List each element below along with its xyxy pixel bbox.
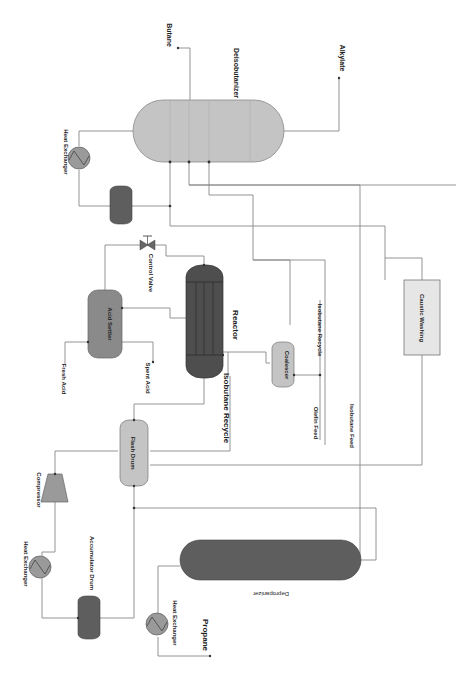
spent-acid-outlet-marker xyxy=(152,361,154,363)
heat-exchanger-top[interactable] xyxy=(68,147,90,169)
pipe-deisobutanizer-bottom2 xyxy=(189,162,456,185)
deisobutanizer[interactable] xyxy=(133,100,284,163)
alkylate-outlet-marker xyxy=(338,77,340,79)
label-compressor: Compressor xyxy=(36,472,42,508)
pipe-reactor-to-settler xyxy=(122,308,186,318)
pipe-alkylate xyxy=(284,78,339,131)
compressor[interactable] xyxy=(41,473,68,502)
label-coalescer: Coalescer xyxy=(284,351,290,380)
label-propane: Propane xyxy=(201,619,210,652)
label-fresh-acid: Fresh Acid xyxy=(61,364,67,395)
pipe-flash-to-recycle xyxy=(150,376,230,451)
pipe-fresh-acid xyxy=(65,342,88,365)
label-deisobutanizer: Deisobutanizer xyxy=(233,48,240,98)
process-flow-diagram: Butane Deisobutanizer Alkylate Heat Exch… xyxy=(0,0,456,679)
pipe-coalescer-to-reactor xyxy=(228,352,270,363)
label-control-valve: Control Valve xyxy=(148,254,154,293)
label-alkylate: Alkylate xyxy=(338,45,346,72)
coalescer[interactable] xyxy=(272,342,321,387)
label-accumulator-drum: Accumulator Drum xyxy=(89,536,95,590)
heat-exchanger-bottom[interactable] xyxy=(146,613,168,635)
label-reactor: Reactor xyxy=(231,310,240,340)
control-valve[interactable] xyxy=(140,236,155,250)
label-spent-acid: Spent Acid xyxy=(145,362,151,393)
depropanizer[interactable] xyxy=(180,540,361,580)
label-acid-settler: Acid Settler xyxy=(107,307,113,341)
butane-outlet-marker xyxy=(177,47,179,49)
pipe-accumulator-to-flash xyxy=(99,486,134,618)
reactor[interactable] xyxy=(186,264,224,378)
label-flash-drum: Flash Drum xyxy=(130,436,136,469)
pipe-spent-acid xyxy=(122,342,153,362)
heat-exchanger-mid[interactable] xyxy=(29,556,51,578)
pipe-butane xyxy=(178,48,190,100)
label-heat-exchanger-mid: Heat Exchanger xyxy=(23,541,29,587)
label-isobutane-recycle-small: Isobutane Recycle xyxy=(317,304,323,357)
label-heat-exchanger-top: Heat Exchanger xyxy=(63,129,69,175)
pipe-reactor-to-flash xyxy=(134,378,204,420)
label-isobutane-feed: Isobutane Feed xyxy=(349,404,355,448)
reflux-drum[interactable] xyxy=(110,186,171,224)
label-isobutane-recycle-main: Isobutane Recycle xyxy=(222,373,231,444)
pipe-hx-to-drum xyxy=(79,170,110,206)
pipe-flash-to-compressor xyxy=(55,451,118,475)
label-butane: Butane xyxy=(166,23,173,47)
pipe-valve-to-reactor xyxy=(155,245,204,265)
acid-settler[interactable] xyxy=(87,290,123,358)
compressor-icon xyxy=(41,474,68,502)
pipe-hx-to-accumulator xyxy=(42,578,78,618)
label-olefin-feed: Olefin Feed xyxy=(313,407,319,440)
label-caustic-washing: Caustic Washing xyxy=(419,294,425,342)
pipe-deisobutanizer-to-hx xyxy=(79,131,133,146)
pipe-caustic-out xyxy=(385,258,422,280)
pipe-settler-to-valve xyxy=(105,245,140,290)
propane-outlet-marker xyxy=(209,655,211,657)
pipe-deisobutanizer-bottom1 xyxy=(170,162,385,280)
label-depropanizer: Depropanizer xyxy=(253,591,289,597)
accumulator-drum[interactable] xyxy=(77,596,100,639)
label-heat-exchanger-bottom: Heat Exchanger xyxy=(172,600,178,646)
pipe-compressor-to-hx xyxy=(42,502,55,556)
